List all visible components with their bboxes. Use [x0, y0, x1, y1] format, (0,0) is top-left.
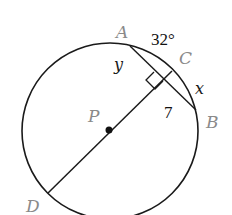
- label-p: P: [87, 106, 100, 126]
- circle-diagram: A C B P D 32° y x 7: [0, 0, 232, 215]
- arc-measure-label: 32°: [151, 30, 175, 49]
- label-d: D: [25, 196, 40, 215]
- label-b: B: [205, 112, 219, 132]
- label-c: C: [179, 48, 192, 68]
- label-7: 7: [164, 103, 173, 122]
- center-point: [106, 127, 113, 134]
- label-a: A: [114, 22, 128, 42]
- label-x: x: [195, 79, 204, 98]
- label-y: y: [113, 55, 124, 74]
- right-angle-marker: [146, 72, 163, 89]
